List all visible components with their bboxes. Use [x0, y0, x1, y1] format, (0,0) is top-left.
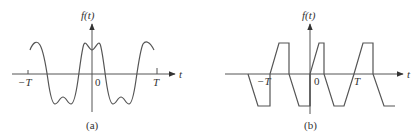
tick-label-zero: 0: [95, 76, 101, 88]
y-axis-label: f(t): [302, 9, 316, 22]
tick-label-neg-T: −T: [257, 75, 271, 87]
panel-b: f(t) t −T 0 T (b): [225, 9, 411, 132]
tick-label-neg-T: −T: [18, 76, 32, 88]
caption-a: (a): [86, 119, 99, 132]
panel-a: f(t) t −T 0 T (a): [12, 9, 183, 132]
figure: f(t) t −T 0 T (a) f(t) t −T 0 T (b): [0, 0, 418, 133]
x-axis-label: t: [179, 68, 183, 80]
tick-label-T: T: [354, 75, 361, 87]
x-axis-label: t: [407, 68, 411, 80]
caption-b: (b): [304, 119, 317, 132]
tick-label-zero: 0: [314, 75, 320, 87]
tick-label-T: T: [153, 76, 160, 88]
y-axis-label: f(t): [81, 9, 95, 22]
